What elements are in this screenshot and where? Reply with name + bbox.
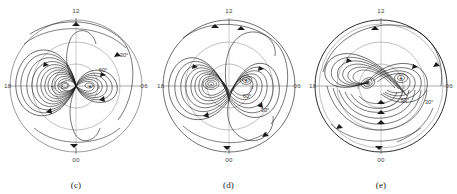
panel-e-contours xyxy=(323,25,442,142)
panel-c-mlt-right: 06 xyxy=(141,82,149,89)
panel-e: 12 18 06 00 30° 60° - + (e) xyxy=(305,0,457,194)
panel-c-mlt-left: 18 xyxy=(4,82,12,89)
panel-d-mlt-right: 06 xyxy=(293,82,301,89)
panel-e-mlt-left: 18 xyxy=(309,82,317,89)
panel-c-contours xyxy=(16,22,133,142)
panel-e-dial: 12 18 06 00 30° 60° - + xyxy=(305,0,457,168)
panel-c-mlt-top: 12 xyxy=(72,7,80,14)
panel-c-colat-30: 30° xyxy=(120,52,128,58)
panel-e-cell-positive: + xyxy=(399,75,403,81)
panel-c-mlt-bottom: 00 xyxy=(72,156,80,163)
panel-c-plot: 12 18 06 00 30° 60° - + xyxy=(0,0,152,168)
panel-d: 12 18 06 00 30° 60° - + (d) xyxy=(153,0,305,194)
figure-container: 12 18 06 00 30° 60° - + (c) xyxy=(0,0,457,194)
panel-c-cell-positive: + xyxy=(88,83,92,89)
panel-d-cell-negative: - xyxy=(210,81,212,87)
panel-e-colat-30: 30° xyxy=(425,99,433,105)
panel-d-dial: 12 18 06 00 30° 60° - + xyxy=(153,0,305,168)
panel-d-mlt-left: 18 xyxy=(157,82,165,89)
panel-c-cell-negative: - xyxy=(51,83,53,89)
panel-d-grid xyxy=(163,18,295,154)
panel-e-caption: (e) xyxy=(305,180,457,190)
panel-d-caption: (d) xyxy=(153,180,305,190)
panel-d-cell-positive: + xyxy=(244,77,248,83)
panel-e-flow-arrows xyxy=(336,26,440,150)
panel-e-mlt-bottom: 00 xyxy=(377,156,385,163)
panel-c: 12 18 06 00 30° 60° - + (c) xyxy=(0,0,152,194)
panel-d-mlt-top: 12 xyxy=(225,7,233,14)
panel-e-plot: 12 18 06 00 30° 60° - + xyxy=(305,0,457,168)
panel-e-colat-60: 60° xyxy=(401,97,409,103)
panel-c-dial: 12 18 06 00 30° 60° - + xyxy=(0,0,152,168)
panel-d-plot: 12 18 06 00 30° 60° - + xyxy=(153,0,305,168)
panel-e-cell-negative: - xyxy=(366,80,368,86)
panel-c-caption: (c) xyxy=(0,180,152,190)
panel-d-colat-60: 60° xyxy=(242,93,250,99)
panel-d-colat-30: 30° xyxy=(260,107,268,113)
panel-d-mlt-bottom: 00 xyxy=(225,156,233,163)
panel-e-mlt-top: 12 xyxy=(377,7,385,14)
panel-d-flow-arrows xyxy=(192,24,269,150)
panel-c-colat-60: 60° xyxy=(99,67,107,73)
panel-e-mlt-right: 06 xyxy=(446,82,454,89)
